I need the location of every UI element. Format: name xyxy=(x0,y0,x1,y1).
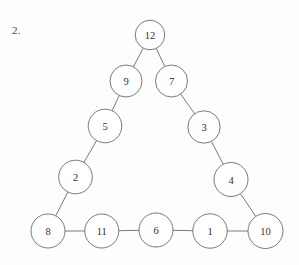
node-label-4: 4 xyxy=(228,175,234,186)
edge-4-3 xyxy=(211,141,223,164)
node-2[interactable]: 2 xyxy=(59,160,93,194)
node-6[interactable]: 6 xyxy=(139,213,173,247)
node-8[interactable]: 8 xyxy=(31,214,65,248)
node-7[interactable]: 7 xyxy=(156,65,188,97)
node-label-12: 12 xyxy=(145,30,156,41)
node-label-5: 5 xyxy=(102,121,107,132)
node-label-2: 2 xyxy=(73,172,78,183)
node-label-9: 9 xyxy=(123,76,128,87)
triangle-puzzle-diagram: 129753248116110 xyxy=(0,0,299,265)
node-1[interactable]: 1 xyxy=(193,214,227,248)
edge-12-9 xyxy=(133,48,143,67)
node-label-8: 8 xyxy=(45,226,50,237)
edge-5-2 xyxy=(84,141,97,163)
node-label-3: 3 xyxy=(201,122,206,133)
edge-2-8 xyxy=(56,192,68,216)
edge-9-5 xyxy=(112,96,119,111)
node-9[interactable]: 9 xyxy=(110,65,142,97)
node-11[interactable]: 11 xyxy=(85,214,119,248)
edges-layer xyxy=(56,48,256,231)
node-3[interactable]: 3 xyxy=(188,111,220,143)
nodes-layer: 129753248116110 xyxy=(31,20,283,248)
edge-7-12 xyxy=(156,48,164,66)
node-label-1: 1 xyxy=(207,226,212,237)
node-12[interactable]: 12 xyxy=(135,20,165,50)
node-10[interactable]: 10 xyxy=(248,214,283,249)
node-label-6: 6 xyxy=(153,225,158,236)
node-5[interactable]: 5 xyxy=(88,109,122,143)
node-label-11: 11 xyxy=(97,226,107,237)
node-label-7: 7 xyxy=(169,76,174,87)
node-label-10: 10 xyxy=(260,226,271,237)
edge-3-7 xyxy=(181,94,195,114)
edge-10-4 xyxy=(240,194,255,217)
figure-container: 2. 129753248116110 xyxy=(0,0,299,265)
node-4[interactable]: 4 xyxy=(214,163,248,197)
